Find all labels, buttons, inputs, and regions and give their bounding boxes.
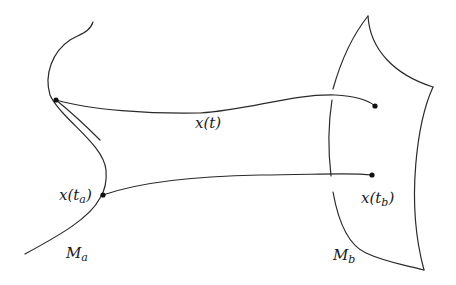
manifold-a-label: Ma (66, 246, 88, 263)
end-point-label-paren: ) (388, 189, 394, 207)
start-point-lower-dot (100, 192, 105, 197)
manifold-b-label-text: M (333, 246, 348, 264)
manifold-b-top-edge (368, 16, 433, 87)
start-point-label-paren: ) (86, 186, 92, 204)
manifold-a-label-sub: a (81, 251, 88, 264)
manifold-b-left-edge-top (333, 16, 368, 89)
manifold-b-right-edge (415, 87, 433, 270)
diagram-canvas: x(t) x(ta) x(tb) Ma Mb (0, 0, 456, 285)
path-upper-curve (56, 95, 375, 113)
start-point-upper-dot (53, 97, 58, 102)
manifold-a-curve (25, 22, 106, 254)
end-point-lower-dot (369, 172, 374, 177)
diagram-svg (0, 0, 456, 285)
start-point-label: x(ta) (59, 188, 92, 205)
end-point-upper-dot (372, 103, 377, 108)
manifold-a-label-text: M (66, 244, 81, 262)
path-label-text: x(t) (195, 114, 221, 132)
manifold-b-label-sub: b (348, 253, 355, 266)
end-point-label-text: x(t (361, 189, 381, 207)
path-label: x(t) (195, 116, 221, 131)
manifold-a-lower-branch (56, 100, 100, 140)
path-lower-curve (103, 174, 372, 195)
manifold-b-label: Mb (333, 248, 355, 265)
start-point-label-text: x(t (59, 186, 79, 204)
end-point-label: x(tb) (361, 191, 394, 208)
manifold-b-left-edge-middle (329, 100, 332, 176)
